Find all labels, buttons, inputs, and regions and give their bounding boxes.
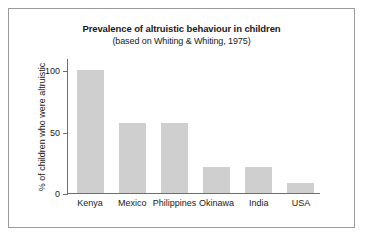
y-tick-mark bbox=[63, 194, 68, 195]
bar-slot: Kenya bbox=[77, 59, 104, 193]
bar-slot: Philippines bbox=[161, 59, 188, 193]
y-tick-label: 100 bbox=[45, 71, 60, 72]
bar bbox=[77, 70, 104, 193]
x-axis-category-label: Okinawa bbox=[199, 198, 234, 208]
y-tick-label: 50 bbox=[50, 133, 60, 134]
chart-figure: Prevalence of altruistic behaviour in ch… bbox=[8, 8, 355, 228]
bar bbox=[203, 167, 230, 193]
bar bbox=[119, 123, 146, 193]
y-tick-mark bbox=[63, 133, 68, 134]
y-axis-label-text: % of children who were altruistic bbox=[37, 62, 47, 191]
plot-area: 050100 KenyaMexicoPhilippinesOkinawaIndi… bbox=[67, 59, 320, 194]
y-axis-label: % of children who were altruistic bbox=[35, 59, 49, 194]
bar bbox=[245, 167, 272, 193]
title-block: Prevalence of altruistic behaviour in ch… bbox=[9, 23, 354, 47]
y-axis-line bbox=[67, 59, 68, 194]
bar-slot: Mexico bbox=[119, 59, 146, 193]
y-tick: 50 bbox=[67, 133, 68, 134]
bar-slot: USA bbox=[287, 59, 314, 193]
x-axis-category-label: India bbox=[249, 198, 269, 208]
x-axis-category-label: Mexico bbox=[118, 198, 147, 208]
y-tick-label: 0 bbox=[55, 194, 60, 195]
x-axis-category-label: USA bbox=[292, 198, 311, 208]
x-axis-line bbox=[67, 193, 320, 194]
y-tick: 0 bbox=[67, 194, 68, 195]
x-axis-category-label: Philippines bbox=[153, 198, 197, 208]
bar bbox=[287, 183, 314, 193]
x-axis-category-label: Kenya bbox=[77, 198, 103, 208]
chart-title: Prevalence of altruistic behaviour in ch… bbox=[9, 23, 354, 35]
chart-subtitle: (based on Whiting & Whiting, 1975) bbox=[9, 35, 354, 47]
y-tick-mark bbox=[63, 71, 68, 72]
bar-slot: India bbox=[245, 59, 272, 193]
y-tick: 100 bbox=[67, 71, 68, 72]
bar-slot: Okinawa bbox=[203, 59, 230, 193]
bar bbox=[161, 123, 188, 193]
